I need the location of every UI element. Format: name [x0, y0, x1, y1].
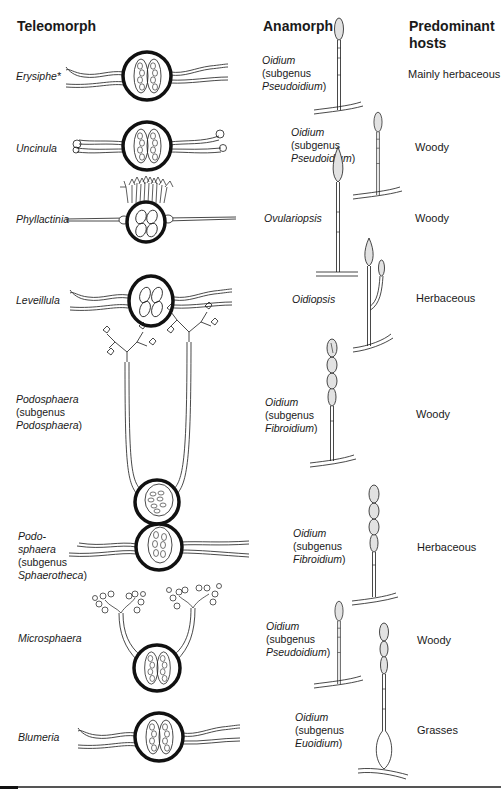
- oidiopsis-conidiophore: [353, 238, 393, 352]
- oidium-conidiophore-row1: [314, 18, 363, 114]
- erysiphe-chasmothecium: [66, 52, 228, 100]
- oidium-conidiophore-row7: [314, 601, 363, 688]
- oidium-fibroidium-conidiophore-row6: [352, 485, 398, 605]
- ovulariopsis-conidiophore: [316, 147, 358, 276]
- blumeria-chasmothecium: [78, 713, 240, 761]
- phyllactinia-chasmothecium: [66, 176, 236, 242]
- mildew-illustrations: [0, 0, 501, 790]
- oidium-fibroidium-conidiophore-row5: [310, 339, 356, 467]
- uncinula-chasmothecium: [73, 122, 227, 170]
- sphaerotheca-chasmothecium: [69, 524, 249, 570]
- bottom-rule: [18, 786, 501, 788]
- podosphaera-chasmothecium: [103, 302, 218, 524]
- bottom-rule-accent: [0, 786, 18, 789]
- oidium-conidiophore-row2: [353, 112, 402, 199]
- microsphaera-chasmothecium: [93, 584, 222, 692]
- oidium-euoidium-conidiophore: [358, 623, 408, 779]
- leveillula-chasmothecium: [70, 276, 232, 326]
